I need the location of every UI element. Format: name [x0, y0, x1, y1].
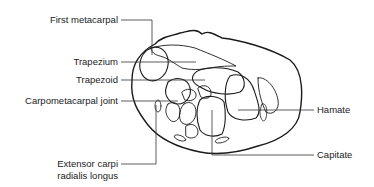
dorsal-shape	[151, 45, 236, 70]
outer-outline	[132, 30, 302, 153]
label-capitate: Capitate	[317, 149, 352, 160]
label-trapezium: Trapezium	[73, 56, 118, 67]
label-extensor-carpi-line1: Extensor carpi	[57, 158, 118, 169]
leader-extensor	[121, 105, 156, 164]
capitate-bone	[197, 96, 225, 136]
label-trapezoid: Trapezoid	[76, 74, 118, 85]
large-dorsal-bone	[192, 68, 244, 94]
trapezium-bone	[136, 44, 172, 84]
label-extensor-carpi-line2: radialis longus	[57, 170, 118, 181]
label-carpometacarpal-joint: Carpometacarpal joint	[25, 95, 118, 106]
hamate-bone	[225, 75, 259, 120]
label-first-metacarpal: First metacarpal	[50, 14, 118, 25]
label-hamate: Hamate	[317, 104, 350, 115]
